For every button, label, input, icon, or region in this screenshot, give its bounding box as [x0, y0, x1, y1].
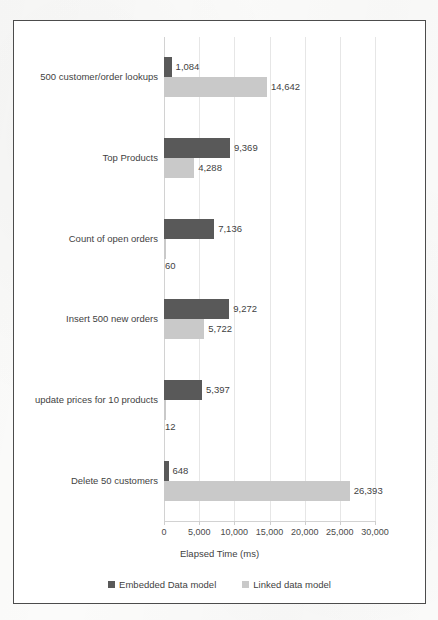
- gridline: [234, 37, 235, 521]
- category-axis-label: Insert 500 new orders: [8, 313, 158, 324]
- category-axis-label: Delete 50 customers: [8, 475, 158, 486]
- bar-value-label: 14,642: [271, 77, 300, 97]
- x-tick-label: 5,000: [188, 527, 211, 537]
- legend-label: Embedded Data model: [119, 579, 216, 590]
- scanned-page: sebue ot rebro enilno ta tuo rof tad dex…: [0, 0, 438, 620]
- chart-legend: Embedded Data model Linked data model: [14, 579, 425, 590]
- gridline: [164, 37, 165, 521]
- bar-linked[interactable]: [164, 158, 194, 178]
- x-tick-label: 0: [161, 527, 166, 537]
- legend-label: Linked data model: [253, 579, 331, 590]
- chart-category-row: Top Products9,3694,288: [164, 138, 375, 178]
- bar-value-label: 9,272: [233, 299, 257, 319]
- x-tick-label: 10,000: [221, 527, 249, 537]
- x-axis-title: Elapsed Time (ms): [14, 548, 425, 559]
- chart-category-row: Insert 500 new orders9,2725,722: [164, 299, 375, 339]
- chart-category-row: 500 customer/order lookups1,08414,642: [164, 57, 375, 97]
- bar-value-label: 648: [173, 461, 189, 481]
- legend-item-linked[interactable]: Linked data model: [242, 579, 331, 590]
- x-tick-mark: [305, 521, 306, 525]
- bar-embedded[interactable]: [164, 138, 230, 158]
- x-tick-mark: [340, 521, 341, 525]
- chart-category-row: update prices for 10 products5,39712: [164, 380, 375, 420]
- x-tick-label: 15,000: [256, 527, 284, 537]
- gridline: [199, 37, 200, 521]
- gridline: [270, 37, 271, 521]
- x-tick-mark: [164, 521, 165, 525]
- bar-value-label: 12: [165, 417, 176, 437]
- bar-linked[interactable]: [164, 481, 350, 501]
- bar-value-label: 4,288: [198, 158, 222, 178]
- gridline: [375, 37, 376, 521]
- bar-embedded[interactable]: [164, 461, 169, 481]
- x-tick-label: 20,000: [291, 527, 319, 537]
- category-axis-label: Count of open orders: [8, 233, 158, 244]
- legend-swatch-icon: [242, 581, 249, 588]
- x-tick-mark: [234, 521, 235, 525]
- bar-embedded[interactable]: [164, 299, 229, 319]
- bar-value-label: 9,369: [234, 138, 258, 158]
- bar-embedded[interactable]: [164, 57, 172, 77]
- x-tick-mark: [375, 521, 376, 525]
- bar-value-label: 26,393: [354, 481, 383, 501]
- bar-value-label: 1,084: [176, 57, 200, 77]
- gridline: [305, 37, 306, 521]
- bar-linked[interactable]: [164, 319, 204, 339]
- x-tick-mark: [270, 521, 271, 525]
- chart-category-row: Count of open orders7,13660: [164, 219, 375, 259]
- category-axis-label: 500 customer/order lookups: [8, 71, 158, 82]
- x-tick-mark: [199, 521, 200, 525]
- legend-item-embedded[interactable]: Embedded Data model: [108, 579, 216, 590]
- category-axis-label: Top Products: [8, 152, 158, 163]
- chart-frame: 500 customer/order lookups1,08414,642Top…: [13, 20, 426, 604]
- legend-swatch-icon: [108, 581, 115, 588]
- x-tick-label: 25,000: [326, 527, 354, 537]
- bar-embedded[interactable]: [164, 380, 202, 400]
- bar-value-label: 7,136: [218, 219, 242, 239]
- plot-area: 500 customer/order lookups1,08414,642Top…: [164, 37, 375, 521]
- bar-value-label: 5,397: [206, 380, 230, 400]
- x-tick-label: 30,000: [361, 527, 389, 537]
- bar-value-label: 60: [165, 256, 176, 276]
- bar-linked[interactable]: [164, 77, 267, 97]
- bar-embedded[interactable]: [164, 219, 214, 239]
- gridline: [340, 37, 341, 521]
- chart-category-row: Delete 50 customers64826,393: [164, 461, 375, 501]
- category-axis-label: update prices for 10 products: [8, 394, 158, 405]
- bar-value-label: 5,722: [208, 319, 232, 339]
